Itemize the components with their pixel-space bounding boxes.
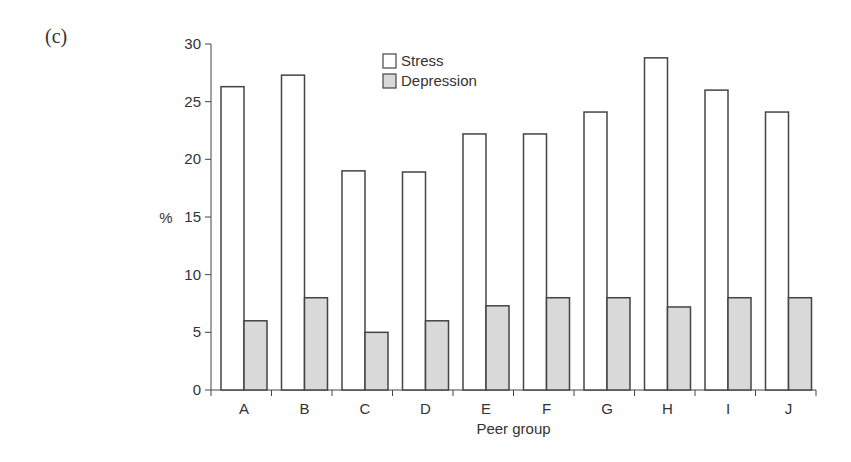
bar-group-I (705, 90, 751, 390)
x-tick-label: G (601, 400, 613, 417)
x-tick-label: E (481, 400, 491, 417)
bar-stress-B (282, 75, 305, 390)
bar-depression-H (668, 307, 691, 390)
bar-group-J (766, 112, 812, 390)
legend-swatch-stress (383, 54, 396, 68)
x-tick-label: C (360, 400, 371, 417)
y-axis-label: % (159, 209, 172, 226)
bar-depression-B (305, 298, 328, 390)
y-tick-label: 0 (193, 381, 201, 398)
x-tick-label: A (239, 400, 249, 417)
bar-group-A (221, 87, 267, 390)
bar-chart: 051015202530%ABCDEFGHIJPeer groupStressD… (0, 0, 851, 462)
bar-stress-D (403, 172, 426, 390)
bar-depression-A (244, 321, 267, 390)
bar-depression-C (365, 332, 388, 390)
bar-stress-E (463, 134, 486, 390)
legend: StressDepression (383, 52, 477, 89)
x-tick-label: H (662, 400, 673, 417)
legend-label-depression: Depression (401, 72, 477, 89)
bar-depression-J (789, 298, 812, 390)
bar-stress-J (766, 112, 789, 390)
bar-stress-C (342, 171, 365, 390)
y-tick-label: 20 (184, 150, 201, 167)
bar-stress-A (221, 87, 244, 390)
y-tick-label: 30 (184, 35, 201, 52)
bar-stress-I (705, 90, 728, 390)
legend-swatch-depression (383, 74, 396, 88)
bar-stress-F (524, 134, 547, 390)
y-tick-label: 25 (184, 93, 201, 110)
x-tick-label: B (299, 400, 309, 417)
bar-group-E (463, 134, 509, 390)
bar-group-D (403, 172, 449, 390)
bar-group-H (645, 58, 691, 390)
bar-depression-D (426, 321, 449, 390)
bar-stress-G (584, 112, 607, 390)
x-tick-label: J (785, 400, 793, 417)
x-tick-label: D (420, 400, 431, 417)
bar-group-C (342, 171, 388, 390)
y-tick-label: 15 (184, 208, 201, 225)
bar-depression-G (607, 298, 630, 390)
x-tick-label: F (542, 400, 551, 417)
bar-depression-F (547, 298, 570, 390)
bar-depression-E (486, 306, 509, 390)
bar-stress-H (645, 58, 668, 390)
bar-group-B (282, 75, 328, 390)
x-tick-label: I (726, 400, 730, 417)
legend-label-stress: Stress (401, 52, 444, 69)
bar-group-G (584, 112, 630, 390)
y-tick-label: 10 (184, 266, 201, 283)
bar-depression-I (728, 298, 751, 390)
bar-group-F (524, 134, 570, 390)
y-tick-label: 5 (193, 323, 201, 340)
x-axis-label: Peer group (476, 420, 550, 437)
